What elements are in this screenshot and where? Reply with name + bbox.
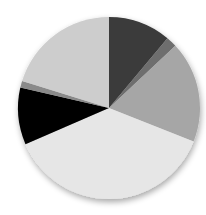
pie-chart [0,0,206,215]
pie-slices [18,17,200,199]
